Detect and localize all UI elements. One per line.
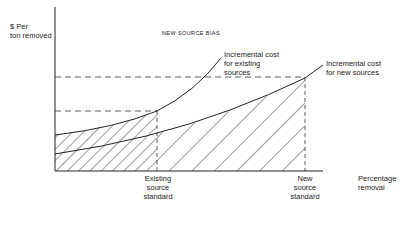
annotation-line: Incremental cost — [224, 50, 279, 59]
annotation-line: for existing — [224, 59, 279, 68]
x-tick-line: Existing — [137, 174, 179, 183]
annotation-line: for new sources — [326, 68, 381, 77]
x-axis-label: Percentage removal — [358, 174, 396, 192]
y-axis-label-line: ton removed — [10, 31, 52, 40]
new-cost-area — [157, 78, 305, 171]
chart-title: NEW SOURCE BIAS — [162, 29, 220, 38]
x-tick-existing-standard: Existing source standard — [137, 174, 179, 201]
y-axis-label-line: $ Per — [10, 22, 52, 31]
annotation-existing-cost: Incremental cost for existing sources — [224, 50, 279, 77]
x-axis-label-line: Percentage — [358, 174, 396, 183]
annotation-line: Incremental cost — [326, 59, 381, 68]
x-tick-new-standard: New source standard — [284, 174, 326, 201]
x-tick-line: New — [284, 174, 326, 183]
y-axis-label: $ Per ton removed — [10, 22, 52, 40]
x-axis-label-line: removal — [358, 183, 396, 192]
x-tick-line: source — [284, 183, 326, 192]
existing-cost-area — [55, 111, 157, 171]
x-tick-line: standard — [137, 192, 179, 201]
x-tick-line: standard — [284, 192, 326, 201]
x-tick-line: source — [137, 183, 179, 192]
annotation-new-cost: Incremental cost for new sources — [326, 59, 381, 77]
annotation-line: sources — [224, 68, 279, 77]
